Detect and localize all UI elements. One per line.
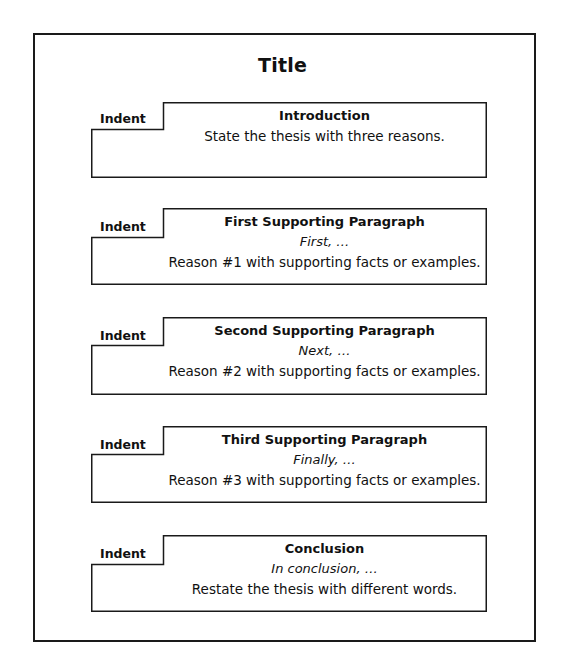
block-heading: Second Supporting Paragraph [163,321,486,341]
block-content: Conclusion In conclusion, … Restate the … [163,539,486,600]
block-heading: First Supporting Paragraph [163,212,486,232]
indent-label: Indent [100,438,146,452]
paragraph-block-introduction: Indent Introduction State the thesis wit… [91,102,487,178]
indent-label: Indent [100,220,146,234]
block-lead-phrase: In conclusion, … [163,559,486,579]
block-lead-phrase: First, … [163,232,486,252]
indent-label: Indent [100,547,146,561]
block-content: First Supporting Paragraph First, … Reas… [163,212,486,273]
block-lead-phrase: Finally, … [163,450,486,470]
block-heading: Third Supporting Paragraph [163,430,486,450]
indent-label: Indent [100,329,146,343]
paragraph-block-second-supporting: Indent Second Supporting Paragraph Next,… [91,317,487,395]
block-body: Reason #1 with supporting facts or examp… [163,252,486,273]
paragraph-block-conclusion: Indent Conclusion In conclusion, … Resta… [91,535,487,612]
paragraph-block-first-supporting: Indent First Supporting Paragraph First,… [91,208,487,285]
block-content: Second Supporting Paragraph Next, … Reas… [163,321,486,382]
block-content: Third Supporting Paragraph Finally, … Re… [163,430,486,491]
block-body: Restate the thesis with different words. [163,579,486,600]
paragraph-block-third-supporting: Indent Third Supporting Paragraph Finall… [91,426,487,503]
indent-label: Indent [100,112,146,126]
block-content: Introduction State the thesis with three… [163,106,486,147]
block-body: Reason #2 with supporting facts or examp… [163,361,486,382]
page-title: Title [0,55,565,75]
block-heading: Conclusion [163,539,486,559]
block-lead-phrase: Next, … [163,341,486,361]
block-heading: Introduction [163,106,486,126]
block-body: Reason #3 with supporting facts or examp… [163,470,486,491]
block-body: State the thesis with three reasons. [163,126,486,147]
